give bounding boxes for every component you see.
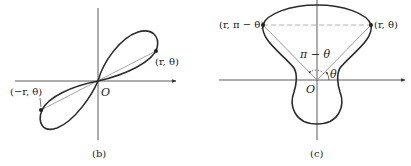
diagram-canvas: (r, θ) (−r, θ) O (b) (r, θ) (r, π − θ) π… xyxy=(0,0,411,166)
figure-b: (r, θ) (−r, θ) O (b) xyxy=(10,8,179,159)
point-r-theta-b xyxy=(154,49,158,53)
point-r-theta-c xyxy=(369,23,373,27)
label-pi-minus-theta: π − θ xyxy=(299,48,330,61)
caption-c: (c) xyxy=(310,148,324,159)
angle-arc-theta xyxy=(326,72,329,80)
caption-b: (b) xyxy=(92,148,106,159)
figure-eight-curve xyxy=(40,31,157,129)
label-r-theta-c: (r, θ) xyxy=(374,19,398,30)
angle-arc-pi-minus-theta xyxy=(309,70,324,74)
figure-c: (r, θ) (r, π − θ) π − θ θ O (c) xyxy=(219,0,405,159)
label-theta: θ xyxy=(330,68,337,81)
point-neg-r-theta xyxy=(39,108,43,112)
label-r-pi-minus-theta: (r, π − θ) xyxy=(219,19,264,30)
label-r-theta-b: (r, θ) xyxy=(155,56,179,67)
label-neg-r-theta: (−r, θ) xyxy=(10,86,42,97)
pointer-neg-r xyxy=(40,98,41,107)
origin-label-c: O xyxy=(306,83,315,96)
origin-label-b: O xyxy=(101,86,110,99)
